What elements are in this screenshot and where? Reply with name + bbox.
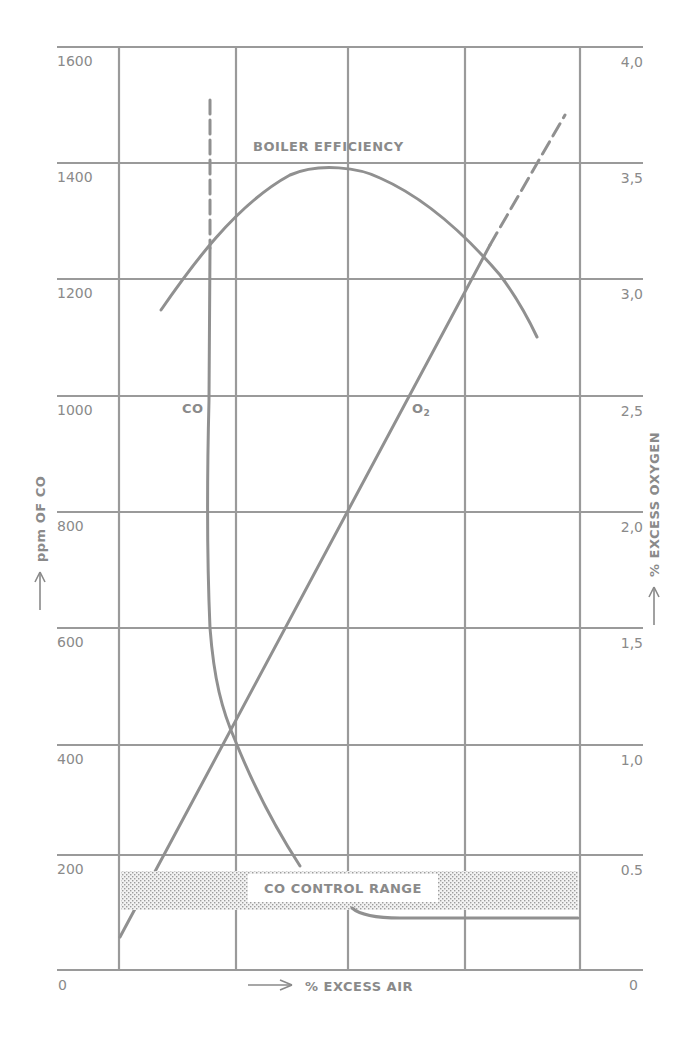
svg-text:1200: 1200: [57, 285, 93, 301]
svg-text:0.5: 0.5: [621, 862, 643, 878]
svg-text:800: 800: [57, 518, 84, 534]
boiler-efficiency-label: BOILER EFFICIENCY: [253, 139, 404, 154]
svg-text:600: 600: [57, 634, 84, 650]
svg-text:2,5: 2,5: [621, 403, 643, 419]
left-axis-ticks: 1600 1400 1200 1000 800 600 400 200 0: [57, 53, 93, 993]
excess-air-chart: CO CONTROL RANGE BOILER EFFICIENCY CO O2…: [0, 0, 691, 1038]
svg-text:400: 400: [57, 751, 84, 767]
svg-text:1,5: 1,5: [621, 635, 643, 651]
svg-text:4,0: 4,0: [621, 54, 643, 70]
svg-text:200: 200: [57, 861, 84, 877]
svg-text:1,0: 1,0: [621, 752, 643, 768]
co-control-range-label: CO CONTROL RANGE: [264, 881, 422, 896]
right-axis-ticks: 4,0 3,5 3,0 2,5 2,0 1,5 1,0 0.5 0: [621, 54, 643, 993]
svg-text:ppm OF CO: ppm OF CO: [33, 476, 48, 562]
co-series: [208, 100, 300, 866]
svg-text:% EXCESS OXYGEN: % EXCESS OXYGEN: [647, 432, 662, 577]
o2-series-label: O2: [412, 401, 430, 418]
x-axis-label: % EXCESS AIR: [248, 979, 413, 994]
svg-text:1000: 1000: [57, 402, 93, 418]
svg-text:0: 0: [629, 977, 638, 993]
svg-text:0: 0: [58, 977, 67, 993]
left-axis-label: ppm OF CO: [33, 476, 48, 610]
svg-text:1400: 1400: [57, 169, 93, 185]
svg-text:1600: 1600: [57, 53, 93, 69]
svg-text:% EXCESS AIR: % EXCESS AIR: [305, 979, 413, 994]
o2-series: [120, 115, 565, 937]
right-axis-label: % EXCESS OXYGEN: [647, 432, 662, 625]
svg-text:2,0: 2,0: [621, 519, 643, 535]
svg-text:3,0: 3,0: [621, 286, 643, 302]
co-series-label: CO: [182, 401, 204, 416]
svg-text:3,5: 3,5: [621, 170, 643, 186]
